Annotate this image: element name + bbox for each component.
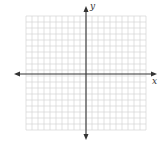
x-axis-label: x [152, 76, 157, 86]
y-axis-label: y [90, 1, 95, 11]
coordinate-plane [0, 0, 164, 143]
x-axis-left-arrow-icon [14, 72, 20, 77]
y-axis-down-arrow-icon [84, 134, 89, 140]
y-axis-up-arrow-icon [84, 6, 89, 12]
